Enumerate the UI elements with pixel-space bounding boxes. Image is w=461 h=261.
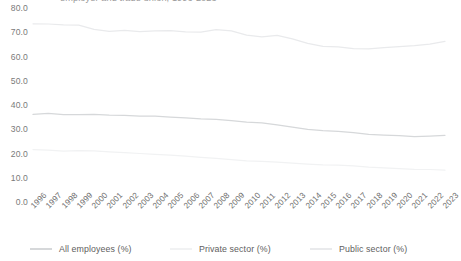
legend-swatch-private-sector: [170, 248, 192, 250]
series-line: [33, 150, 445, 171]
legend-label-private-sector: Private sector (%): [199, 244, 271, 254]
legend-item-public-sector[interactable]: Public sector (%): [310, 241, 407, 257]
legend-swatch-public-sector: [310, 248, 332, 250]
y-axis-tick-label: 10.0: [11, 173, 28, 183]
series-line: [33, 24, 445, 49]
y-axis-tick-label: 20.0: [11, 149, 28, 159]
legend-label-all-employees: All employees (%): [59, 244, 132, 254]
series-lines: [33, 8, 445, 202]
y-axis-tick-label: 70.0: [11, 27, 28, 37]
legend-swatch-all-employees: [30, 248, 52, 250]
chart-title: employer and trade union, 1996-2023: [60, 0, 400, 4]
y-axis-tick-label: 30.0: [11, 124, 28, 134]
y-axis-tick-label: 60.0: [11, 52, 28, 62]
y-axis-tick-label: 50.0: [11, 76, 28, 86]
plot-area: [33, 8, 445, 202]
x-axis: 1996199719981999200020012002200320042005…: [33, 204, 445, 238]
y-axis-tick-label: 40.0: [11, 100, 28, 110]
chart-legend: All employees (%) Private sector (%) Pub…: [0, 241, 451, 259]
legend-item-all-employees[interactable]: All employees (%): [30, 241, 132, 257]
y-axis-tick-label: 80.0: [11, 3, 28, 13]
legend-item-private-sector[interactable]: Private sector (%): [170, 241, 271, 257]
legend-label-public-sector: Public sector (%): [339, 244, 407, 254]
y-axis-tick-label: 0.0: [16, 197, 28, 207]
series-line: [33, 113, 445, 136]
y-axis: 80.070.060.050.040.030.020.010.00.0: [0, 8, 31, 202]
